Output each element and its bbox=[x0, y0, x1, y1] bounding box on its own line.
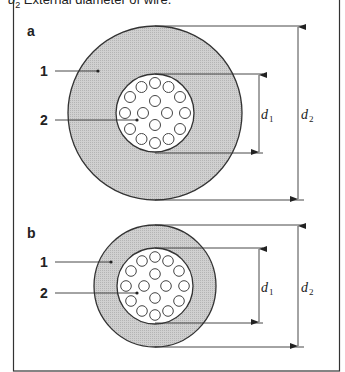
panel-b-d2-label: d bbox=[301, 280, 309, 295]
panel-a-d2-subscript: 2 bbox=[309, 114, 314, 124]
panel-b-label: b bbox=[27, 225, 36, 241]
panel-a-d1-subscript: 1 bbox=[269, 114, 274, 124]
panel-a-callout-2: 2 bbox=[40, 112, 48, 128]
panel-a: a 1 2 d 1 d 2 bbox=[27, 23, 314, 200]
panel-b-d1-subscript: 1 bbox=[269, 287, 274, 297]
wire-cross-section-diagram: a 1 2 d 1 d 2 b bbox=[0, 0, 345, 372]
panel-a-callout-1: 1 bbox=[40, 63, 48, 79]
panel-a-d2-label: d bbox=[301, 107, 309, 122]
panel-b-callout-2: 2 bbox=[40, 285, 48, 301]
panel-b-callout-1: 1 bbox=[40, 254, 48, 270]
panel-a-d1-label: d bbox=[261, 107, 269, 122]
panel-b: b 1 2 d 1 d 2 bbox=[27, 225, 314, 347]
panel-a-label: a bbox=[27, 23, 35, 39]
panel-b-d1-label: d bbox=[261, 280, 269, 295]
panel-b-d2-subscript: 2 bbox=[309, 287, 314, 297]
